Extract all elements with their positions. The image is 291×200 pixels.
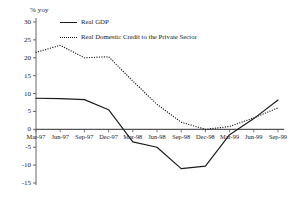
- x-axis-tick-label: Jun-98: [148, 133, 165, 140]
- chart-container: % yoy Real GDP Real Domestic Credit to t…: [0, 0, 291, 200]
- x-axis-tick-label: Mar-99: [220, 133, 239, 140]
- x-axis-tick-label: Sep-97: [75, 133, 93, 140]
- y-axis-tick-label: 15: [15, 72, 31, 80]
- x-axis-tick-label: Jun-99: [245, 133, 262, 140]
- series-line-real-domestic-credit: [36, 45, 278, 129]
- x-axis-tick-label: Dec-98: [196, 133, 215, 140]
- x-axis-tick-label: Jun-97: [51, 133, 68, 140]
- y-axis-tick-label: 10: [15, 90, 31, 98]
- x-axis-tick-label: Dec-97: [99, 133, 118, 140]
- y-axis-tick-label: 0: [15, 125, 31, 133]
- y-axis-tick-label: 30: [15, 18, 31, 26]
- plot-area: [0, 0, 291, 200]
- y-axis-tick-label: 20: [15, 54, 31, 62]
- x-axis-tick-label: Mar-98: [123, 133, 142, 140]
- x-axis-tick-label: Sep-99: [269, 133, 287, 140]
- x-axis-tick-label: Mar-97: [26, 133, 45, 140]
- y-axis-tick-label: -10: [15, 161, 31, 169]
- y-axis-tick-label: 5: [15, 107, 31, 115]
- x-axis-tick-label: Sep-98: [172, 133, 190, 140]
- y-axis-tick-label: -15: [15, 179, 31, 187]
- y-axis-tick-label: -5: [15, 143, 31, 151]
- y-axis-tick-label: 25: [15, 36, 31, 44]
